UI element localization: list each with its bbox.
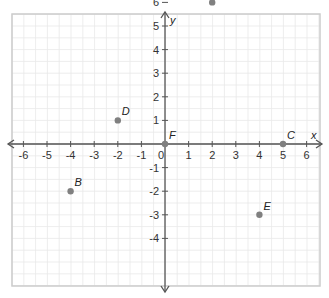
x-tick-label: 6 xyxy=(304,149,310,161)
y-tick-label: 1 xyxy=(153,114,159,126)
y-tick-label: 6 xyxy=(153,0,159,8)
x-tick-label: 2 xyxy=(209,149,215,161)
grid xyxy=(12,14,320,286)
x-tick-label: 3 xyxy=(233,149,239,161)
y-tick-label: 2 xyxy=(153,91,159,103)
point-label: F xyxy=(169,129,177,141)
point-b xyxy=(67,188,73,194)
x-tick-label: 0 xyxy=(158,149,164,161)
y-tick-label: 3 xyxy=(153,67,159,79)
point-a xyxy=(209,0,215,6)
x-tick-label: -3 xyxy=(89,149,99,161)
x-tick-label: -1 xyxy=(137,149,147,161)
x-tick-label: -6 xyxy=(19,149,29,161)
x-tick-label: -4 xyxy=(66,149,76,161)
x-axis-label: x xyxy=(310,129,317,141)
point-label: E xyxy=(263,200,271,212)
y-tick-label: -1 xyxy=(149,162,159,174)
point-c xyxy=(280,141,286,147)
y-tick-label: -4 xyxy=(149,232,159,244)
point-label: C xyxy=(287,129,295,141)
y-tick-label: -2 xyxy=(149,185,159,197)
x-tick-label: 5 xyxy=(280,149,286,161)
point-label: B xyxy=(75,176,82,188)
x-tick-label: -5 xyxy=(42,149,52,161)
y-tick-label: 5 xyxy=(153,20,159,32)
plot-border xyxy=(12,14,320,286)
x-tick-label: 1 xyxy=(186,149,192,161)
y-tick-label: 4 xyxy=(153,44,159,56)
coordinate-plane: xy -6-5-4-3-2-10123456-4-3-2-1123456 ABC… xyxy=(0,0,329,298)
x-tick-label: 4 xyxy=(256,149,262,161)
point-f xyxy=(162,141,168,147)
x-tick-label: -2 xyxy=(113,149,123,161)
y-tick-label: -3 xyxy=(149,209,159,221)
point-d xyxy=(115,117,121,123)
point-e xyxy=(256,212,262,218)
point-label: D xyxy=(122,105,130,117)
y-axis-label: y xyxy=(169,14,177,26)
